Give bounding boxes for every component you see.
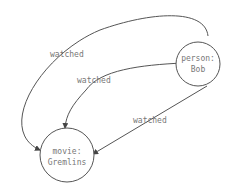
- node-gremlins-name: Gremlins: [48, 158, 87, 167]
- edge-watched-outer: [22, 16, 208, 150]
- node-gremlins-type: movie:: [53, 147, 82, 156]
- edge-label-lower: watched: [133, 116, 167, 125]
- node-person-bob[interactable]: person: Bob: [176, 42, 220, 86]
- node-bob-type: person:: [181, 54, 215, 63]
- edge-label-outer: watched: [50, 50, 84, 59]
- node-bob-name: Bob: [191, 65, 206, 74]
- edge-label-middle: watched: [77, 76, 111, 85]
- graph-canvas: watched watched watched person: Bob movi…: [0, 0, 241, 188]
- node-movie-gremlins[interactable]: movie: Gremlins: [40, 128, 94, 182]
